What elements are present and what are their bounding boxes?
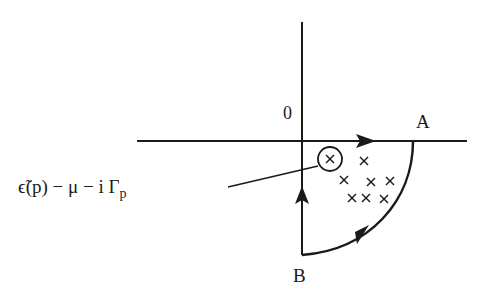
- pole-icon: [326, 155, 334, 163]
- pole-icon: [360, 157, 368, 165]
- origin-label: 0: [283, 103, 292, 124]
- pole-icon: [380, 195, 388, 203]
- leader-line: [228, 166, 318, 187]
- arrow-arc-icon: [355, 225, 369, 244]
- pole-icon: [367, 178, 375, 186]
- pole-expression: ϵ̃(p) − μ − i Γp: [18, 176, 126, 202]
- pole-markers: [326, 155, 394, 203]
- pole-icon: [362, 194, 370, 202]
- pole-expression-subscript: p: [119, 186, 126, 201]
- point-a-label: A: [416, 111, 430, 133]
- pole-icon: [340, 176, 348, 184]
- point-b-label: B: [293, 265, 306, 287]
- pole-icon: [386, 177, 394, 185]
- pole-icon: [348, 194, 356, 202]
- contour-diagram: [0, 0, 491, 300]
- pole-expression-main: ϵ̃(p) − μ − i Γ: [18, 176, 119, 197]
